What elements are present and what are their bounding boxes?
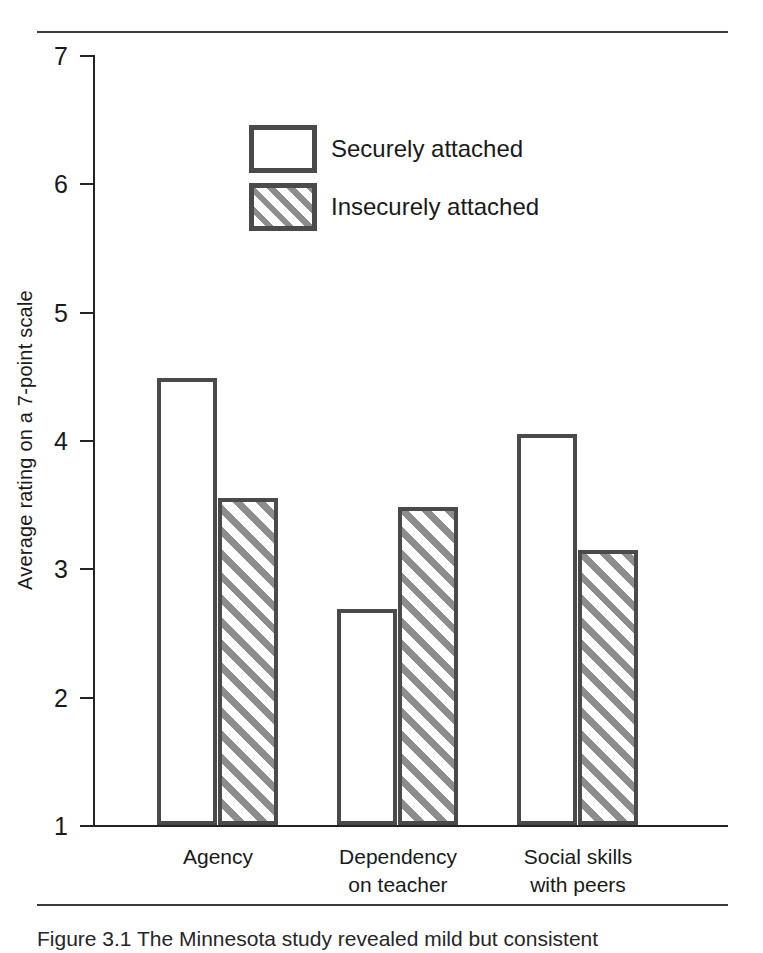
y-tick-label: 4 xyxy=(54,429,68,454)
bar xyxy=(157,378,217,825)
x-axis-category-label: Agency xyxy=(183,843,253,871)
bottom-rule xyxy=(37,904,728,906)
legend-label: Securely attached xyxy=(331,137,523,161)
y-tick-mark: 6 xyxy=(80,183,95,185)
bar xyxy=(517,434,577,825)
y-tick-label: 6 xyxy=(54,172,68,197)
legend-item: Insecurely attached xyxy=(249,181,539,233)
bar xyxy=(398,507,458,825)
legend-label: Insecurely attached xyxy=(331,195,539,219)
y-tick-label: 1 xyxy=(54,814,68,839)
chart-legend: Securely attachedInsecurely attached xyxy=(249,123,539,239)
legend-item: Securely attached xyxy=(249,123,539,175)
bar xyxy=(337,609,397,825)
x-axis-line xyxy=(93,825,728,827)
y-tick-label: 7 xyxy=(54,44,68,69)
x-axis-category-label: Dependency on teacher xyxy=(339,843,457,898)
figure-caption: Figure 3.1 The Minnesota study revealed … xyxy=(37,924,737,953)
y-tick-mark: 2 xyxy=(80,697,95,699)
top-rule xyxy=(37,31,728,33)
bar xyxy=(578,550,638,825)
y-tick-label: 3 xyxy=(54,557,68,582)
y-tick-mark: 4 xyxy=(80,440,95,442)
plot-area: Average rating on a 7-point scale 123456… xyxy=(93,55,728,825)
y-axis-title: Average rating on a 7-point scale xyxy=(14,290,37,590)
legend-swatch xyxy=(249,183,317,231)
y-tick-mark: 3 xyxy=(80,568,95,570)
y-tick-mark: 1 xyxy=(80,825,95,827)
y-tick-mark: 5 xyxy=(80,312,95,314)
bar xyxy=(218,498,278,825)
legend-swatch xyxy=(249,125,317,173)
x-axis-category-label: Social skills with peers xyxy=(524,843,633,898)
y-tick-label: 2 xyxy=(54,685,68,710)
y-tick-label: 5 xyxy=(54,300,68,325)
y-tick-mark: 7 xyxy=(80,55,95,57)
